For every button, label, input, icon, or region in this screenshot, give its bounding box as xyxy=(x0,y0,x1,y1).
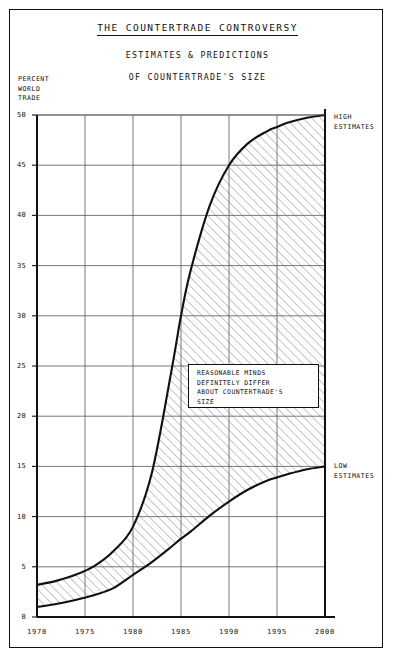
y-tick-label: 0 xyxy=(4,613,26,621)
x-tick-label: 1985 xyxy=(159,628,203,636)
y-tick-label: 45 xyxy=(4,161,26,169)
x-tick-label: 1980 xyxy=(111,628,155,636)
x-tick-label: 2000 xyxy=(303,628,347,636)
y-tick-label: 40 xyxy=(4,211,26,219)
y-tick-label: 35 xyxy=(4,262,26,270)
chart-plot xyxy=(0,0,395,663)
x-tick-label: 1975 xyxy=(63,628,107,636)
annotation-callout-box: REASONABLE MINDS DEFINITELY DIFFER ABOUT… xyxy=(188,364,319,408)
high-estimates-label: HIGH ESTIMATES xyxy=(334,113,374,132)
y-tick-label: 15 xyxy=(4,462,26,470)
chart-page: THE COUNTERTRADE CONTROVERSY ESTIMATES &… xyxy=(0,0,395,663)
y-tick-label: 20 xyxy=(4,412,26,420)
y-tick-label: 5 xyxy=(4,563,26,571)
x-tick-label: 1990 xyxy=(207,628,251,636)
y-tick-label: 25 xyxy=(4,362,26,370)
x-tick-label: 1995 xyxy=(255,628,299,636)
y-tick-label: 30 xyxy=(4,312,26,320)
y-tick-label: 50 xyxy=(4,111,26,119)
y-tick-label: 10 xyxy=(4,513,26,521)
low-estimates-label: LOW ESTIMATES xyxy=(334,462,374,481)
x-tick-label: 1970 xyxy=(15,628,59,636)
